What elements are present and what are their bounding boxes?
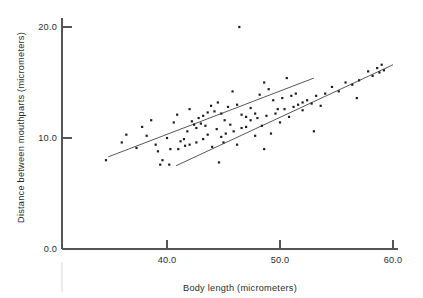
data-point [272,99,274,101]
data-point [381,64,383,66]
data-point [166,137,168,139]
data-point [240,127,242,129]
y-axis-tick-label: 0.0 [44,244,57,254]
data-point [176,114,178,116]
lower-regression-line [176,65,393,166]
data-point [207,134,209,136]
data-point [236,144,238,146]
data-point [200,122,202,124]
data-point [292,106,294,108]
data-point [288,116,290,118]
chart-canvas: 0.010.020.040.050.060.0 Body length (mic… [0,0,423,298]
data-point [313,130,315,132]
data-point [159,164,161,166]
data-point [338,90,340,92]
data-point [351,84,353,86]
data-point [245,116,247,118]
data-point [169,148,171,150]
data-point [256,117,258,119]
data-point [217,101,219,103]
data-point [179,140,181,142]
data-point [189,108,191,110]
data-point [105,159,107,161]
data-point [254,112,256,114]
data-point [173,121,175,123]
y-axis-tick-label: 20.0 [38,22,57,32]
data-point [356,97,358,99]
data-point [378,71,380,73]
data-point [184,145,186,147]
axis-labels: Body length (micrometers)Distance betwee… [16,32,297,293]
data-point [358,79,360,81]
data-point [216,128,218,130]
upper-regression-line [108,78,314,157]
axes: 0.010.020.040.050.060.0 [38,18,402,292]
data-point [225,132,227,134]
data-point [376,67,378,69]
data-point [135,147,137,149]
data-point [261,125,263,127]
data-point [302,101,304,103]
data-point [281,97,283,99]
data-point [263,148,265,150]
data-point [220,136,222,138]
data-point [157,150,159,152]
y-axis-tick-label: 10.0 [38,133,57,143]
data-point [268,88,270,90]
data-point [198,117,200,119]
x-axis-title: Body length (micrometers) [183,283,297,293]
data-point [229,124,231,126]
data-point [202,115,204,117]
data-point [161,159,163,161]
data-point [254,135,256,137]
data-point [207,111,209,113]
data-point [306,99,308,101]
data-point [295,93,297,95]
data-point [193,124,195,126]
data-point [224,119,226,121]
data-point [324,93,326,95]
data-point [213,110,215,112]
data-point [183,138,185,140]
data-point [168,164,170,166]
data-point [231,90,233,92]
data-point [222,141,224,143]
data-point [218,161,220,163]
data-point [344,81,346,83]
data-point [290,95,292,97]
data-point [211,146,213,148]
data-point [227,106,229,108]
data-point [141,126,143,128]
data-point [155,144,157,146]
data-point [320,105,322,107]
x-axis-tick-label: 60.0 [384,255,403,265]
data-point [210,105,212,107]
data-point [277,108,279,110]
data-point [315,95,317,97]
data-point [236,104,238,106]
data-point [259,94,261,96]
data-point [195,127,197,129]
data-point [372,75,374,77]
data-point [331,86,333,88]
data-point [383,69,385,71]
data-point [311,102,313,104]
data-point [270,132,272,134]
data-point [286,77,288,79]
x-axis-tick-label: 50.0 [271,255,290,265]
data-point [279,121,281,123]
regression-lines [108,65,393,166]
data-point [250,119,252,121]
data-point [195,141,197,143]
data-point [367,70,369,72]
data-point [283,108,285,110]
data-point [263,81,265,83]
data-point [274,112,276,114]
data-point [150,119,152,121]
data-point [220,112,222,114]
data-point [121,141,123,143]
data-point [245,126,247,128]
data-point [233,130,235,132]
data-point [238,26,240,28]
data-point [177,148,179,150]
